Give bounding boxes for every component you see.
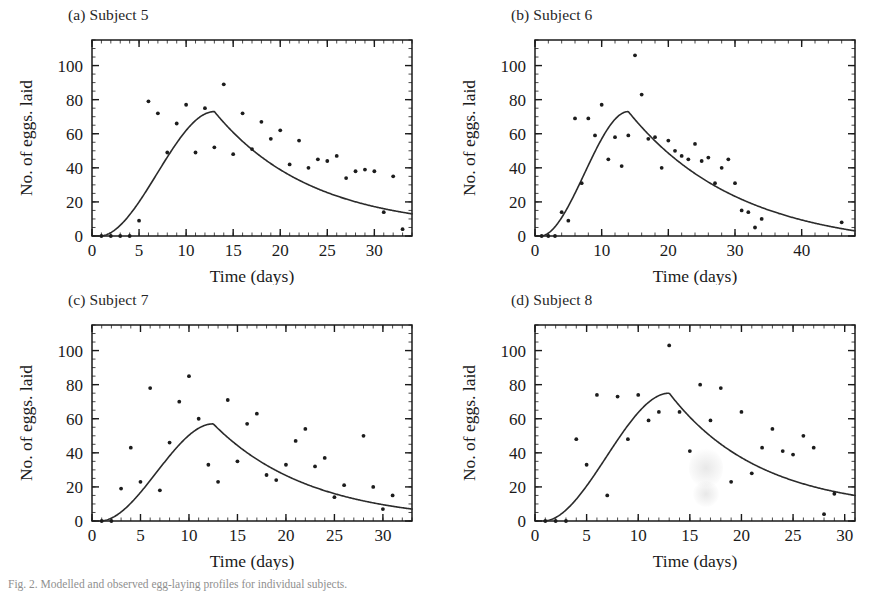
x-tick-label: 20 [660, 241, 677, 260]
data-point [680, 154, 684, 158]
data-point [801, 434, 805, 438]
y-tick-label: 20 [66, 193, 83, 212]
data-point [595, 393, 599, 397]
y-tick-label: 80 [509, 376, 526, 395]
data-point [294, 439, 298, 443]
data-point [678, 410, 682, 414]
data-point [840, 220, 844, 224]
data-point [222, 82, 226, 86]
data-point [187, 374, 191, 378]
data-point [706, 156, 710, 160]
panel-c-plot: 051015202530020406080100Time (days)No. o… [0, 285, 443, 570]
data-point [323, 456, 327, 460]
data-point [284, 463, 288, 467]
x-tick-label: 20 [277, 526, 294, 545]
chart-panel-d: (d) Subject 8 051015202530020406080100Ti… [443, 285, 886, 570]
data-point [381, 507, 385, 511]
data-point [626, 437, 630, 441]
data-point [733, 181, 737, 185]
data-point [693, 142, 697, 146]
data-point [543, 519, 547, 523]
data-point [158, 488, 162, 492]
x-axis-title: Time (days) [210, 266, 295, 285]
data-point [605, 494, 609, 498]
data-point [274, 478, 278, 482]
data-point [255, 412, 259, 416]
fitted-curve [100, 112, 412, 236]
data-point [729, 480, 733, 484]
y-tick-label: 60 [509, 410, 526, 429]
data-point [197, 417, 201, 421]
data-point [600, 103, 604, 107]
data-point [241, 111, 245, 115]
plot-frame [92, 325, 412, 521]
data-point [313, 465, 317, 469]
y-tick-label: 40 [509, 159, 526, 178]
data-point [148, 386, 152, 390]
data-point [688, 449, 692, 453]
y-tick-label: 0 [518, 227, 527, 246]
data-point [750, 471, 754, 475]
panel-a-plot: 051015202530020406080100Time (days)No. o… [0, 0, 443, 285]
x-tick-label: 30 [836, 526, 853, 545]
x-tick-label: 10 [178, 241, 195, 260]
data-point [647, 419, 651, 423]
data-point [109, 234, 113, 238]
x-tick-label: 5 [582, 526, 591, 545]
data-point [574, 437, 578, 441]
chart-panel-c: (c) Subject 7 051015202530020406080100Ti… [0, 285, 443, 570]
y-tick-label: 80 [66, 376, 83, 395]
data-point [573, 117, 577, 121]
x-tick-label: 25 [319, 241, 336, 260]
data-point [342, 483, 346, 487]
data-point [203, 106, 207, 110]
data-point [212, 145, 216, 149]
data-point [118, 234, 122, 238]
data-point [100, 234, 104, 238]
y-tick-label: 40 [66, 444, 83, 463]
data-point [626, 134, 630, 138]
data-point [236, 459, 240, 463]
data-point [372, 169, 376, 173]
x-tick-label: 20 [272, 241, 289, 260]
x-tick-label: 40 [793, 241, 810, 260]
y-axis-title: No. of eggs. laid [459, 365, 479, 481]
data-point [667, 344, 671, 348]
data-point [194, 151, 198, 155]
x-tick-label: 30 [366, 241, 383, 260]
x-axis-title: Time (days) [653, 551, 738, 570]
data-point [719, 386, 723, 390]
y-tick-label: 0 [518, 512, 527, 531]
data-point [354, 169, 358, 173]
x-tick-label: 15 [681, 526, 698, 545]
data-point [553, 234, 557, 238]
plot-frame [535, 40, 855, 236]
data-point [560, 210, 564, 214]
data-point [606, 157, 610, 161]
y-axis-title: No. of eggs. laid [16, 80, 36, 196]
y-tick-label: 100 [58, 57, 84, 76]
data-point [156, 111, 160, 115]
data-point [165, 151, 169, 155]
figure-caption: Fig. 2. Modelled and observed egg-laying… [8, 578, 878, 594]
x-tick-label: 15 [225, 241, 242, 260]
data-point [666, 139, 670, 143]
data-point [363, 168, 367, 172]
data-point [586, 117, 590, 121]
data-point [307, 166, 311, 170]
data-point [316, 157, 320, 161]
x-tick-label: 10 [180, 526, 197, 545]
x-tick-label: 30 [727, 241, 744, 260]
x-tick-label: 0 [531, 526, 540, 545]
x-tick-label: 5 [136, 526, 145, 545]
y-tick-label: 20 [509, 193, 526, 212]
x-tick-label: 0 [88, 241, 97, 260]
x-axis-title: Time (days) [210, 551, 295, 570]
data-point [137, 219, 141, 223]
data-point [720, 166, 724, 170]
data-point [753, 226, 757, 230]
data-point [791, 453, 795, 457]
data-point [812, 446, 816, 450]
data-point [119, 487, 123, 491]
data-point [401, 227, 405, 231]
